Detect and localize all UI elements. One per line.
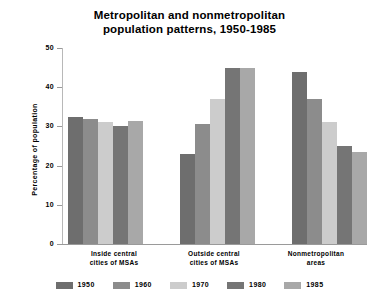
x-axis-category-labels: Inside central cities of MSAs Outside ce… [62, 250, 367, 274]
category-label-outside-central-cities: Outside central cities of MSAs [159, 250, 269, 267]
chart-title: Metropolitan and nonmetropolitan populat… [0, 8, 379, 36]
legend-swatch-1960 [113, 282, 130, 289]
legend-label-1970: 1970 [192, 281, 209, 289]
bar-1970-1 [98, 122, 113, 244]
legend-item-1960[interactable]: 1960 [113, 281, 152, 289]
bar-1960-2 [195, 124, 210, 244]
bar-1960-3 [307, 99, 322, 244]
y-axis-title: Percentage of population [31, 70, 38, 230]
chart-title-line-2: population patterns, 1950-1985 [0, 22, 379, 36]
bar-1970-3 [322, 122, 337, 244]
bar-group [292, 48, 367, 244]
bar-1980-2 [225, 68, 240, 244]
chart-title-line-1: Metropolitan and nonmetropolitan [0, 8, 379, 22]
bar-1970-2 [210, 99, 225, 244]
category-label-line: areas [261, 259, 371, 268]
bar-group [68, 48, 143, 244]
category-label-line: Nonmetropolitan [261, 250, 371, 259]
bar-1985-1 [128, 121, 143, 244]
legend-label-1960: 1960 [135, 281, 152, 289]
bar-1985-3 [352, 152, 367, 244]
bar-1980-1 [113, 126, 128, 244]
bar-1960-1 [83, 119, 98, 244]
category-label-line: Outside central [159, 250, 269, 259]
bar-1950-2 [180, 154, 195, 244]
bar-group [180, 48, 255, 244]
chart-legend: 19501960197019801985 [0, 281, 379, 289]
category-label-line: cities of MSAs [59, 259, 169, 268]
bar-1980-3 [337, 146, 352, 244]
category-label-line: cities of MSAs [159, 259, 269, 268]
legend-label-1980: 1980 [249, 281, 266, 289]
legend-swatch-1980 [227, 282, 244, 289]
legend-swatch-1985 [284, 282, 301, 289]
legend-swatch-1970 [170, 282, 187, 289]
legend-item-1950[interactable]: 1950 [56, 281, 95, 289]
legend-item-1980[interactable]: 1980 [227, 281, 266, 289]
bar-1950-1 [68, 117, 83, 244]
legend-item-1985[interactable]: 1985 [284, 281, 323, 289]
legend-item-1970[interactable]: 1970 [170, 281, 209, 289]
bars-layer [62, 48, 367, 244]
bar-1950-3 [292, 72, 307, 244]
legend-label-1985: 1985 [306, 281, 323, 289]
category-label-line: Inside central [59, 250, 169, 259]
legend-swatch-1950 [56, 282, 73, 289]
category-label-nonmetropolitan-areas: Nonmetropolitan areas [261, 250, 371, 267]
category-label-inside-central-cities: Inside central cities of MSAs [59, 250, 169, 267]
x-axis-line [57, 244, 367, 245]
legend-label-1950: 1950 [78, 281, 95, 289]
bar-1985-2 [240, 68, 255, 244]
